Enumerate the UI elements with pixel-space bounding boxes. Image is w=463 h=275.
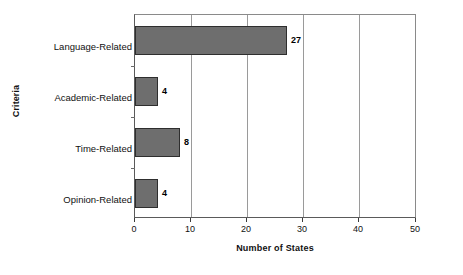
gridline-40 [359, 15, 360, 217]
x-axis-tick-label: 40 [353, 224, 363, 234]
bar-opinion-related [135, 179, 158, 208]
bar-value-time-related: 8 [184, 138, 189, 147]
y-axis-tick-labels: Language-Related Academic-Related Time-R… [8, 14, 132, 218]
x-axis-tick-label: 10 [185, 224, 195, 234]
bar-time-related [135, 128, 180, 157]
x-axis-tick [415, 218, 416, 222]
x-axis: 0 10 20 30 40 50 [134, 218, 416, 240]
bar-value-opinion-related: 4 [162, 189, 167, 198]
y-axis-minor-tick [131, 168, 135, 169]
y-axis-tick-label: Opinion-Related [12, 195, 132, 205]
x-axis-tick [190, 218, 191, 222]
bar-academic-related [135, 77, 158, 106]
plot-area: 27 4 8 4 [134, 14, 416, 218]
x-axis-tick [302, 218, 303, 222]
x-axis-tick-label: 20 [241, 224, 251, 234]
y-axis-tick-label: Language-Related [12, 42, 132, 52]
x-axis-tick-label: 30 [297, 224, 307, 234]
bar-language-related [135, 26, 287, 55]
x-axis-tick-label: 50 [410, 224, 420, 234]
x-axis-tick [134, 218, 135, 222]
y-axis-minor-tick [131, 117, 135, 118]
bar-value-academic-related: 4 [162, 87, 167, 96]
y-axis-tick-label: Academic-Related [12, 93, 132, 103]
bar-value-language-related: 27 [291, 36, 301, 45]
bar-chart: Criteria Language-Related Academic-Relat… [0, 0, 463, 275]
gridline-30 [303, 15, 304, 217]
y-axis-tick-label: Time-Related [12, 144, 132, 154]
x-axis-tick [358, 218, 359, 222]
x-axis-tick [246, 218, 247, 222]
x-axis-tick-label: 0 [131, 224, 136, 234]
x-axis-title: Number of States [134, 243, 416, 253]
y-axis-minor-tick [131, 66, 135, 67]
